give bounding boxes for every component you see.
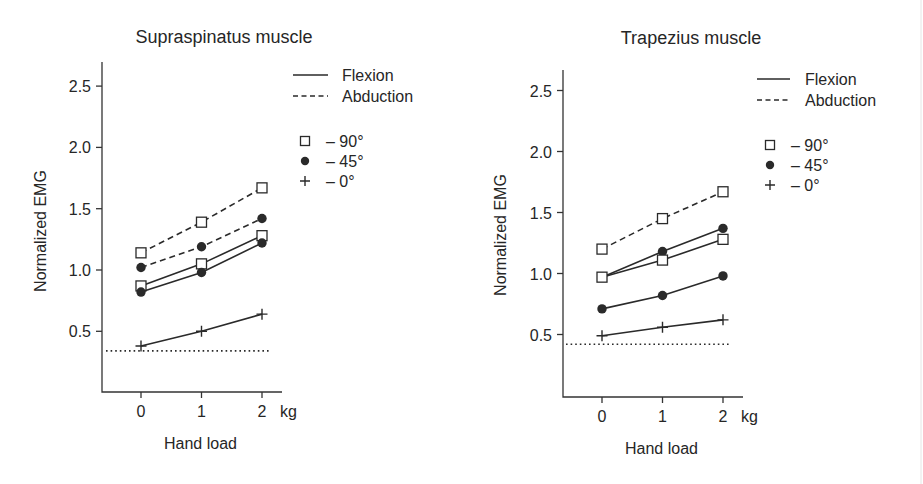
x-axis-ticks: 012 xyxy=(137,392,267,420)
y-axis-ticks: 0.51.01.52.02.5 xyxy=(530,83,563,344)
open-square-marker-icon xyxy=(136,248,146,258)
legend-label: Abduction xyxy=(805,92,876,109)
y-tick-label: 2.5 xyxy=(69,78,91,95)
series-flexion-0- xyxy=(597,314,729,341)
plus-marker-icon xyxy=(300,176,310,186)
filled-circle-marker-icon xyxy=(658,291,667,300)
data-series xyxy=(597,187,729,341)
y-axis-label: Normalized EMG xyxy=(492,174,509,296)
filled-circle-marker-icon xyxy=(766,161,774,169)
open-square-marker-icon xyxy=(658,255,668,265)
y-tick-label: 1.0 xyxy=(69,262,91,279)
filled-circle-marker-icon xyxy=(197,242,206,251)
open-square-marker-icon xyxy=(597,244,607,254)
plus-marker-icon xyxy=(718,314,729,325)
legend-label: Flexion xyxy=(342,67,394,84)
axes-frame xyxy=(102,62,282,392)
series-flexion-45- xyxy=(597,271,727,313)
plus-marker-icon xyxy=(257,309,268,320)
series-flexion-90- xyxy=(597,234,728,282)
plus-marker-icon xyxy=(597,330,608,341)
legend-label: – 0° xyxy=(791,177,820,194)
chart-title: Supraspinatus muscle xyxy=(135,27,312,47)
y-tick-label: 0.5 xyxy=(530,327,552,344)
x-axis-unit: kg xyxy=(741,408,758,425)
y-axis-label: Normalized EMG xyxy=(32,170,49,292)
legend-label: – 0° xyxy=(326,173,355,190)
figure: Supraspinatus muscle Normalized EMG 0.51… xyxy=(0,0,923,484)
y-tick-label: 2.0 xyxy=(530,144,552,161)
figure-canvas: Supraspinatus muscle Normalized EMG 0.51… xyxy=(0,0,923,484)
y-tick-label: 1.5 xyxy=(69,201,91,218)
open-square-marker-icon xyxy=(301,137,310,146)
x-tick-label: 0 xyxy=(598,408,607,425)
legend-label: – 90° xyxy=(791,137,829,154)
filled-circle-marker-icon xyxy=(257,214,266,223)
x-tick-label: 2 xyxy=(719,408,728,425)
x-tick-label: 1 xyxy=(197,403,206,420)
open-square-marker-icon xyxy=(658,214,668,224)
x-axis-unit: kg xyxy=(280,403,297,420)
y-tick-label: 2.0 xyxy=(69,139,91,156)
legend: FlexionAbduction– 90°– 45°– 0° xyxy=(757,71,876,194)
filled-circle-marker-icon xyxy=(197,268,206,277)
open-square-marker-icon xyxy=(766,141,775,150)
chart-panel-supraspinatus: Supraspinatus muscle Normalized EMG 0.51… xyxy=(32,27,413,452)
x-axis-label: Hand load xyxy=(164,435,237,452)
y-tick-label: 0.5 xyxy=(69,323,91,340)
open-square-marker-icon xyxy=(597,272,607,282)
legend-label: – 90° xyxy=(326,133,364,150)
x-axis-label: Hand load xyxy=(625,440,698,457)
open-square-marker-icon xyxy=(718,187,728,197)
x-axis-ticks: 012 xyxy=(598,397,728,425)
chart-panel-trapezius: Trapezius muscle Normalized EMG 0.51.01.… xyxy=(492,28,876,457)
series-flexion-90- xyxy=(136,231,267,291)
chart-title: Trapezius muscle xyxy=(621,28,761,48)
open-square-marker-icon xyxy=(718,234,728,244)
plus-marker-icon xyxy=(136,341,147,352)
filled-circle-marker-icon xyxy=(597,304,606,313)
plus-marker-icon xyxy=(196,326,207,337)
y-tick-label: 1.0 xyxy=(530,266,552,283)
filled-circle-marker-icon xyxy=(257,238,266,247)
x-tick-label: 1 xyxy=(658,408,667,425)
open-square-marker-icon xyxy=(197,259,207,269)
y-axis-ticks: 0.51.01.52.02.5 xyxy=(69,78,102,340)
plus-marker-icon xyxy=(765,180,775,190)
filled-circle-marker-icon xyxy=(136,263,145,272)
filled-circle-marker-icon xyxy=(718,224,727,233)
legend-label: Flexion xyxy=(805,71,857,88)
legend-label: – 45° xyxy=(326,153,364,170)
legend: FlexionAbduction– 90°– 45°– 0° xyxy=(293,67,413,190)
plus-marker-icon xyxy=(657,322,668,333)
open-square-marker-icon xyxy=(197,217,207,227)
data-series xyxy=(136,183,268,352)
legend-label: – 45° xyxy=(791,157,829,174)
filled-circle-marker-icon xyxy=(718,271,727,280)
axes-frame xyxy=(563,70,743,397)
filled-circle-marker-icon xyxy=(301,157,309,165)
open-square-marker-icon xyxy=(257,183,267,193)
x-tick-label: 0 xyxy=(137,403,146,420)
legend-label: Abduction xyxy=(342,88,413,105)
x-tick-label: 2 xyxy=(258,403,267,420)
y-tick-label: 2.5 xyxy=(530,83,552,100)
series-flexion-0- xyxy=(136,309,268,352)
filled-circle-marker-icon xyxy=(136,287,145,296)
y-tick-label: 1.5 xyxy=(530,205,552,222)
